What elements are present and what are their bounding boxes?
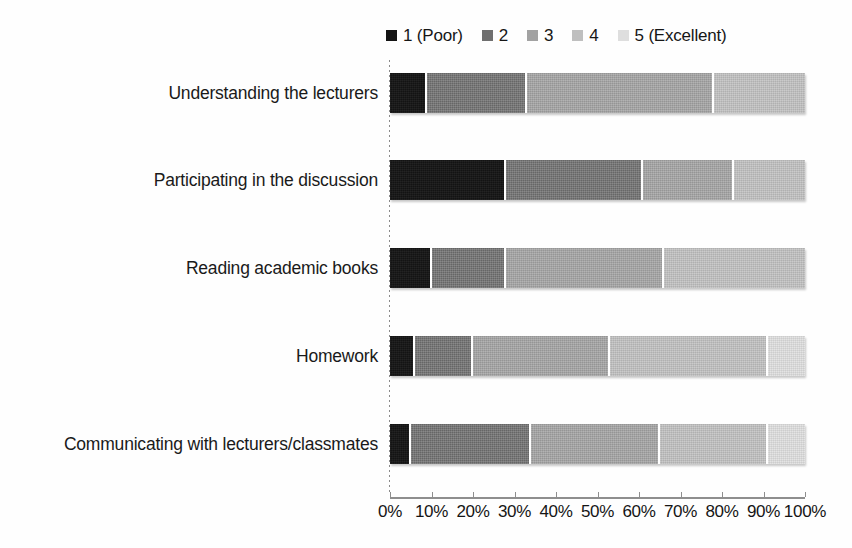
bar-row [390, 73, 805, 113]
x-axis-tick-label: 20% [456, 502, 489, 521]
plot-area [390, 60, 805, 492]
x-axis-tick [722, 492, 723, 497]
x-axis-tick [764, 492, 765, 497]
x-axis-tick [639, 492, 640, 497]
bar-segment [473, 336, 610, 376]
bar-segment [390, 248, 432, 288]
stacked-bar [390, 73, 805, 113]
x-axis-tick-label: 40% [539, 502, 572, 521]
category-label: Understanding the lecturers [0, 83, 378, 103]
x-axis-tick [681, 492, 682, 497]
bar-segment [527, 73, 714, 113]
legend-swatch-1-icon [386, 30, 397, 41]
bar-segment [390, 336, 415, 376]
stacked-bar [390, 424, 805, 464]
bar-segment [643, 160, 734, 200]
x-axis-tick [473, 492, 474, 497]
category-label: Homework [0, 346, 378, 366]
bar-segment [610, 336, 768, 376]
bar-segment [415, 336, 473, 376]
x-axis-tick [432, 492, 433, 497]
bar-segment [664, 248, 805, 288]
legend-label-2: 2 [499, 27, 508, 44]
bar-row [390, 160, 805, 200]
legend-item-2: 2 [482, 27, 508, 44]
x-axis-tick [805, 492, 806, 497]
legend-swatch-2-icon [482, 30, 493, 41]
bar-segment [411, 424, 531, 464]
x-axis-tick-label: 50% [581, 502, 614, 521]
category-label: Communicating with lecturers/classmates [0, 434, 378, 454]
legend-label-1: 1 (Poor) [403, 27, 463, 44]
bar-segment [768, 336, 805, 376]
category-label: Reading academic books [0, 258, 378, 278]
legend-item-4: 4 [572, 27, 598, 44]
category-label: Participating in the discussion [0, 170, 378, 190]
x-axis-tick [515, 492, 516, 497]
bar-segment [427, 73, 527, 113]
bar-row [390, 424, 805, 464]
bar-row [390, 248, 805, 288]
x-axis-tick-label: 80% [705, 502, 738, 521]
legend-label-5: 5 (Excellent) [635, 27, 727, 44]
x-axis-tick [556, 492, 557, 497]
bar-segment [660, 424, 768, 464]
legend-item-1: 1 (Poor) [386, 27, 463, 44]
stacked-bar-chart-figure: 1 (Poor) 2 3 4 5 (Excellent) Understandi… [0, 0, 852, 548]
legend-item-3: 3 [527, 27, 553, 44]
x-axis-tick-label: 60% [622, 502, 655, 521]
legend-label-4: 4 [589, 27, 598, 44]
x-axis-tick-label: 90% [747, 502, 780, 521]
bar-segment [734, 160, 805, 200]
bar-segment [531, 424, 660, 464]
stacked-bar [390, 336, 805, 376]
x-axis-tick [390, 492, 391, 497]
x-axis-tick [598, 492, 599, 497]
bar-segment [506, 248, 664, 288]
legend-swatch-3-icon [527, 30, 538, 41]
x-axis-tick-label: 10% [415, 502, 448, 521]
x-axis [390, 497, 805, 499]
bar-segment [714, 73, 805, 113]
chart-legend: 1 (Poor) 2 3 4 5 (Excellent) [386, 22, 727, 48]
bar-segment [506, 160, 643, 200]
bar-segment [390, 424, 411, 464]
bar-segment [432, 248, 507, 288]
stacked-bar [390, 160, 805, 200]
legend-swatch-4-icon [572, 30, 583, 41]
x-axis-tick-label: 70% [664, 502, 697, 521]
bar-segment [390, 73, 427, 113]
bar-segment [390, 160, 506, 200]
x-axis-tick-label: 0% [378, 502, 402, 521]
legend-label-3: 3 [544, 27, 553, 44]
x-axis-tick-label: 30% [498, 502, 531, 521]
stacked-bar [390, 248, 805, 288]
legend-item-5: 5 (Excellent) [618, 27, 727, 44]
bar-segment [768, 424, 805, 464]
x-axis-tick-label: 100% [784, 502, 826, 521]
bar-row [390, 336, 805, 376]
legend-swatch-5-icon [618, 30, 629, 41]
